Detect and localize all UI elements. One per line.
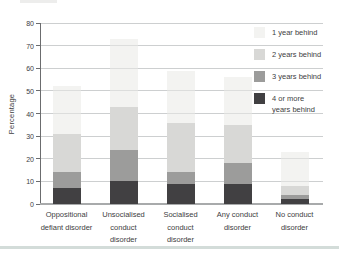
- bar-segment: [224, 125, 252, 163]
- legend-item: 1 year behind: [254, 27, 338, 38]
- category-label-line: disorder: [206, 222, 270, 235]
- bar-segment: [53, 188, 81, 204]
- category-label-line: Any conduct: [206, 209, 270, 222]
- category-label-line: disorder: [263, 222, 327, 235]
- category-label-line: No conduct: [263, 209, 327, 222]
- category-label-line: disorder: [92, 234, 156, 247]
- bar-segment: [110, 39, 138, 107]
- bar-segment: [281, 186, 309, 195]
- bar-segment: [167, 184, 195, 204]
- bar-segment: [224, 163, 252, 183]
- category-label: Socialisedconductdisorder: [149, 209, 213, 247]
- legend-item: 3 years behind: [254, 71, 338, 82]
- y-tick-mark: [36, 23, 40, 24]
- y-tick-mark: [36, 136, 40, 137]
- bar-segment: [110, 181, 138, 204]
- figure: Percentage 01020304050607080Oppositional…: [0, 0, 339, 254]
- category-label: No conductdisorder: [263, 209, 327, 234]
- y-tick-label: 50: [26, 87, 34, 94]
- bar-stack: [281, 152, 309, 204]
- bar-segment: [53, 86, 81, 134]
- legend-swatch: [254, 93, 265, 104]
- y-tick-label: 70: [26, 42, 34, 49]
- y-tick-label: 10: [26, 178, 34, 185]
- legend-swatch: [254, 49, 265, 60]
- y-tick-mark: [36, 113, 40, 114]
- gridline: [41, 23, 323, 24]
- category-label-line: Oppositional: [35, 209, 99, 222]
- y-tick-label: 80: [26, 20, 34, 27]
- y-tick-mark: [36, 204, 40, 205]
- bar-segment: [224, 184, 252, 204]
- bar-segment: [167, 71, 195, 123]
- y-tick-mark: [36, 45, 40, 46]
- category-label: Any conductdisorder: [206, 209, 270, 234]
- category-label: Unsocialisedconductdisorder: [92, 209, 156, 247]
- bottom-rule: [0, 246, 339, 249]
- y-tick-label: 40: [26, 110, 34, 117]
- legend-label: 1 year behind: [272, 27, 317, 38]
- bar-segment: [53, 172, 81, 188]
- legend-item: 2 years behind: [254, 49, 338, 60]
- bar-stack: [224, 77, 252, 204]
- y-tick-mark: [36, 181, 40, 182]
- category-label-line: disorder: [149, 234, 213, 247]
- bar-segment: [110, 150, 138, 182]
- bar-segment: [224, 77, 252, 125]
- bar-stack: [110, 39, 138, 204]
- legend-swatch: [254, 71, 265, 82]
- legend-swatch: [254, 27, 265, 38]
- cropped-header-remnant: [20, 0, 57, 3]
- legend-label: 4 or more years behind: [272, 93, 315, 115]
- bar-segment: [281, 152, 309, 186]
- y-axis-title: Percentage: [7, 94, 16, 134]
- legend: 1 year behind2 years behind3 years behin…: [254, 27, 338, 126]
- y-tick-mark: [36, 90, 40, 91]
- category-label-line: conduct: [149, 222, 213, 235]
- y-tick-label: 30: [26, 133, 34, 140]
- bar-stack: [53, 86, 81, 204]
- category-label-line: Socialised: [149, 209, 213, 222]
- bar-segment: [167, 123, 195, 173]
- category-label-line: Unsocialised: [92, 209, 156, 222]
- bar-segment: [110, 107, 138, 150]
- category-label-line: defiant disorder: [35, 222, 99, 235]
- bar-segment: [281, 199, 309, 204]
- legend-label: 2 years behind: [272, 49, 321, 60]
- y-tick-mark: [36, 68, 40, 69]
- y-tick-mark: [36, 158, 40, 159]
- y-tick-label: 0: [30, 201, 34, 208]
- legend-label: 3 years behind: [272, 71, 321, 82]
- y-tick-label: 60: [26, 65, 34, 72]
- category-label-line: conduct: [92, 222, 156, 235]
- bar-segment: [167, 172, 195, 183]
- bar-segment: [53, 134, 81, 172]
- bar-stack: [167, 71, 195, 204]
- y-tick-label: 20: [26, 155, 34, 162]
- category-label: Oppositionaldefiant disorder: [35, 209, 99, 234]
- legend-item: 4 or more years behind: [254, 93, 338, 115]
